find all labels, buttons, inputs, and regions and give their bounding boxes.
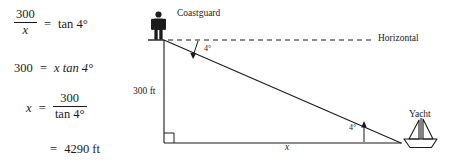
triangle-diagram: Coastguard Horizontal 4° 300 ft Yacht 4°… [140,0,453,163]
right-angle-marker [164,133,174,143]
yacht-label: Yacht [409,110,431,120]
solution-working: 300 x = tan 4° 300 = x tan 4° x = 300 ta… [0,0,140,163]
fraction-numerator-2: 300 [53,92,87,106]
equals-sign-2: = [36,62,51,75]
fraction-denominator: x [14,23,37,37]
equation-1-rhs: tan 4° [58,18,88,31]
equation-4-result: = 4290 ft [46,142,100,155]
equation-1: 300 x = tan 4° [14,10,88,39]
elevation-angle-arrow [361,121,367,142]
sailboat-icon [404,118,437,148]
equals-sign-1: = [40,18,55,31]
horizontal-label: Horizontal [378,34,419,44]
equation-2-lhs: 300 [14,62,33,75]
fraction-300-over-x: 300 x [14,8,37,37]
fraction-numerator: 300 [14,8,37,22]
equals-sign-4: = [46,143,61,156]
cliff-height-label: 300 ft [133,87,155,97]
figure-root: 300 x = tan 4° 300 = x tan 4° x = 300 ta… [0,0,453,163]
depression-angle-label: 4° [204,45,211,53]
fraction-denominator-2: tan 4° [53,107,87,121]
result-value: 4290 ft [64,143,100,156]
equation-2-rhs: x tan 4° [54,62,93,75]
depression-angle-arrow [190,41,198,59]
coastguard-label: Coastguard [177,9,220,19]
equals-sign-3: = [35,102,50,115]
elevation-angle-label: 4° [349,124,356,132]
diagram-svg [140,0,453,163]
equation-2: 300 = x tan 4° [14,61,93,74]
person-icon [151,11,166,39]
fraction-300-over-tan4: 300 tan 4° [53,92,87,121]
equation-3-lhs: x [26,102,32,115]
line-of-sight [164,40,401,143]
equation-3: x = 300 tan 4° [26,94,87,123]
base-length-label: x [285,143,289,153]
